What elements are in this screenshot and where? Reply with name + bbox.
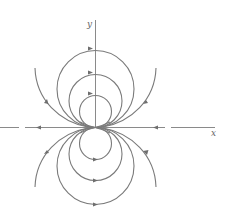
lower-circles bbox=[57, 128, 134, 205]
arrow-left-icon bbox=[153, 126, 158, 130]
outer-curve-upper-right bbox=[103, 68, 156, 127]
arrow-left-icon bbox=[36, 126, 41, 130]
lower-circle-large bbox=[57, 128, 134, 205]
lower-circle-medium bbox=[69, 128, 122, 181]
arrow-right-icon bbox=[88, 47, 93, 51]
x-axis-label: x bbox=[211, 128, 216, 138]
arrow-right-icon bbox=[88, 92, 93, 96]
phase-portrait: x y bbox=[0, 0, 228, 214]
outer-curve-lower-left bbox=[35, 128, 88, 187]
arrow-right-icon bbox=[93, 158, 98, 162]
y-axis-label: y bbox=[86, 19, 93, 29]
axes: x y bbox=[0, 19, 216, 138]
arrow-right-icon bbox=[93, 203, 98, 207]
lower-circle-small bbox=[80, 128, 112, 160]
arrow-right-icon bbox=[88, 71, 93, 75]
outer-curve-lower-right bbox=[103, 128, 156, 187]
arrow-right-icon bbox=[93, 179, 98, 183]
outer-curve-upper-left bbox=[35, 68, 88, 127]
